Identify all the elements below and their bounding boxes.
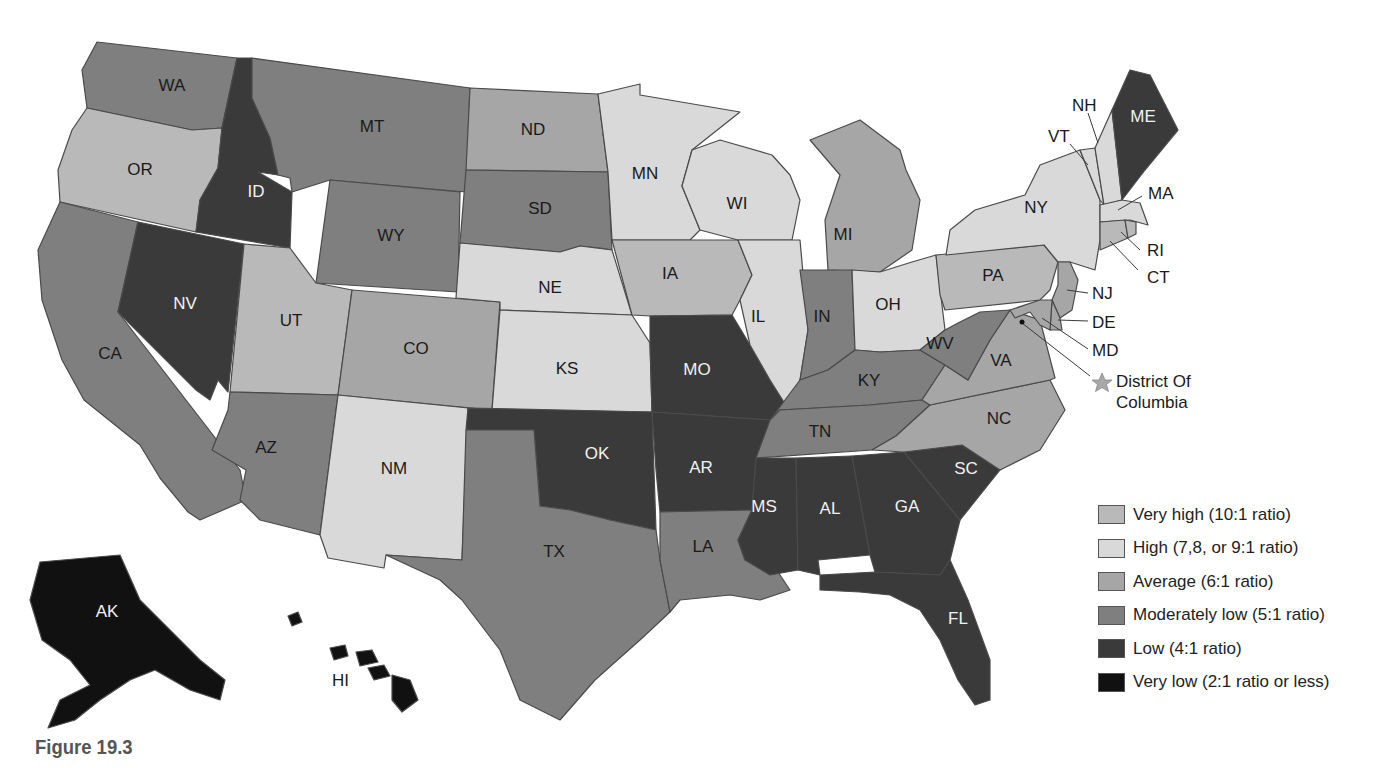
- label-ct: CT: [1147, 268, 1170, 287]
- state-ia: [612, 240, 752, 316]
- label-nd: ND: [521, 120, 546, 139]
- legend-label: Low (4:1 ratio): [1133, 639, 1242, 659]
- map-legend: Very high (10:1 ratio) High (7,8, or 9:1…: [1098, 498, 1330, 699]
- label-wv: WV: [926, 334, 954, 353]
- label-ut: UT: [280, 311, 303, 330]
- label-ma: MA: [1148, 184, 1174, 203]
- label-wa: WA: [159, 76, 186, 95]
- label-al: AL: [820, 499, 841, 518]
- label-ga: GA: [895, 497, 920, 516]
- label-sd: SD: [528, 199, 552, 218]
- label-in: IN: [814, 307, 831, 326]
- legend-label: Very high (10:1 ratio): [1133, 505, 1291, 525]
- label-pa: PA: [982, 266, 1004, 285]
- state-ak: [30, 555, 225, 728]
- legend-swatch: [1098, 572, 1125, 591]
- dc-marker: [1020, 320, 1025, 325]
- legend-swatch: [1098, 505, 1125, 524]
- label-me: ME: [1130, 107, 1156, 126]
- state-hi-4: [368, 665, 390, 680]
- label-il: IL: [751, 307, 765, 326]
- legend-item-very-high: Very high (10:1 ratio): [1098, 498, 1330, 532]
- figure-caption: Figure 19.3: [35, 735, 133, 759]
- legend-label: Moderately low (5:1 ratio): [1133, 605, 1325, 625]
- label-vt: VT: [1048, 127, 1070, 146]
- label-ar: AR: [689, 458, 713, 477]
- label-de: DE: [1092, 313, 1116, 332]
- dc-label-line1: District Of: [1116, 372, 1191, 391]
- legend-label: Very low (2:1 ratio or less): [1133, 672, 1330, 692]
- legend-swatch: [1098, 606, 1125, 625]
- label-nc: NC: [987, 409, 1012, 428]
- label-va: VA: [990, 351, 1012, 370]
- label-mt: MT: [360, 117, 385, 136]
- label-nv: NV: [173, 294, 197, 313]
- label-ms: MS: [751, 497, 777, 516]
- state-hi-3: [356, 650, 378, 666]
- label-nh: NH: [1072, 96, 1097, 115]
- label-tn: TN: [809, 422, 832, 441]
- star-icon: [1092, 373, 1112, 392]
- label-id: ID: [248, 182, 265, 201]
- label-az: AZ: [255, 438, 277, 457]
- legend-label: Average (6:1 ratio): [1133, 572, 1273, 592]
- label-ok: OK: [585, 444, 610, 463]
- legend-item-high: High (7,8, or 9:1 ratio): [1098, 532, 1330, 566]
- label-or: OR: [127, 160, 153, 179]
- label-ak: AK: [96, 602, 119, 621]
- legend-item-average: Average (6:1 ratio): [1098, 565, 1330, 599]
- legend-swatch: [1098, 639, 1125, 658]
- label-ia: IA: [662, 264, 679, 283]
- label-mn: MN: [632, 164, 658, 183]
- state-nm: [320, 395, 468, 568]
- legend-label: High (7,8, or 9:1 ratio): [1133, 538, 1298, 558]
- label-ne: NE: [538, 278, 562, 297]
- label-ca: CA: [98, 344, 122, 363]
- label-hi: HI: [332, 671, 349, 690]
- label-ri: RI: [1147, 241, 1164, 260]
- state-wi: [682, 140, 800, 240]
- label-ny: NY: [1024, 198, 1048, 217]
- label-ks: KS: [556, 359, 579, 378]
- label-fl: FL: [948, 609, 968, 628]
- legend-swatch: [1098, 673, 1125, 692]
- state-hi-5: [392, 675, 418, 712]
- label-sc: SC: [954, 459, 978, 478]
- label-co: CO: [403, 339, 429, 358]
- label-md: MD: [1092, 341, 1118, 360]
- label-wi: WI: [727, 194, 748, 213]
- label-oh: OH: [875, 295, 901, 314]
- state-hi-2: [330, 645, 348, 660]
- state-fl: [820, 560, 990, 705]
- label-mi: MI: [834, 225, 853, 244]
- label-wy: WY: [377, 226, 404, 245]
- legend-item-low: Low (4:1 ratio): [1098, 632, 1330, 666]
- label-ky: KY: [858, 371, 881, 390]
- label-mo: MO: [683, 360, 710, 379]
- state-mi: [810, 120, 920, 272]
- dc-label-line2: Columbia: [1116, 393, 1188, 412]
- legend-swatch: [1098, 539, 1125, 558]
- label-nm: NM: [381, 459, 407, 478]
- label-tx: TX: [543, 542, 565, 561]
- label-la: LA: [693, 537, 714, 556]
- state-hi-1: [288, 612, 302, 626]
- legend-item-moderately-low: Moderately low (5:1 ratio): [1098, 599, 1330, 633]
- legend-item-very-low: Very low (2:1 ratio or less): [1098, 666, 1330, 700]
- label-nj: NJ: [1092, 284, 1113, 303]
- state-me: [1112, 70, 1178, 200]
